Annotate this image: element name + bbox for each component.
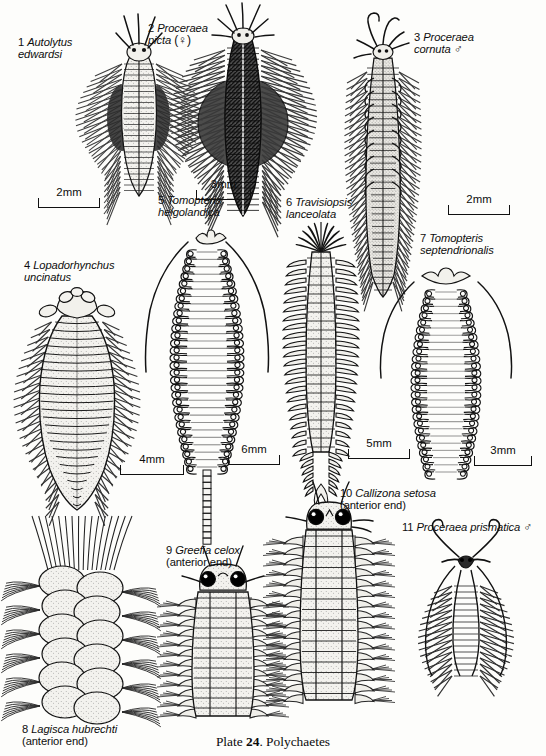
figure-label-6: 6 Travisiopsis lanceolata	[286, 196, 352, 221]
scale-bar-2mm-fig3: 2mm	[448, 193, 510, 215]
figure-label-9: 9 Greefia celox(anterior end)	[166, 544, 240, 569]
figure-species-4: Lopadorhynchus uncinatus	[24, 259, 114, 283]
scale-bar-5mm-fig6: 5mm	[348, 437, 410, 459]
figure-qualifier-9: (anterior end)	[166, 556, 240, 568]
scale-bar-2mm-fig1: 2mm	[38, 186, 100, 208]
caption-prefix: Plate	[216, 734, 246, 749]
figure-label-11: 11 Proceraea prismatica ♂	[402, 521, 532, 533]
figure-number-5: 5	[158, 194, 164, 206]
caption-number: 24	[246, 734, 259, 749]
figure-number-11: 11	[402, 521, 413, 533]
figure-species-6: Travisiopsis lanceolata	[286, 196, 352, 220]
figure-4-lopadorhynchus-uncinatus	[14, 288, 141, 526]
figure-sex-symbol-11: ♂	[523, 520, 532, 534]
figure-species-10: Callizona setosa	[355, 487, 436, 499]
figure-number-9: 9	[166, 544, 172, 556]
scale-bar-3mm-fig2: 3mm	[196, 178, 251, 200]
figure-label-7: 7 Tomopteris septendrionalis	[420, 232, 494, 257]
figure-label-4: 4 Lopadorhynchus uncinatus	[24, 259, 114, 284]
figure-species-11: Proceraea prismatica	[416, 521, 520, 533]
polychaete-plate-illustration	[0, 0, 546, 756]
figure-3-proceraea-cornuta	[344, 13, 421, 311]
scale-bar-rule	[474, 456, 532, 466]
figure-8-lagisca-hubrechti	[1, 516, 161, 727]
figure-label-1: 1 Autolytus edwardsi	[18, 36, 72, 61]
figure-sex-symbol-2: (♀)	[174, 33, 191, 47]
figure-number-2: 2	[148, 22, 154, 34]
figure-species-7: Tomopteris septendrionalis	[420, 232, 494, 256]
figure-number-3: 3	[414, 31, 420, 43]
figure-label-3: 3 Proceraea cornuta ♂	[414, 31, 474, 56]
scale-bar-3mm-fig7: 3mm	[474, 444, 532, 466]
figure-species-3: Proceraea cornuta	[414, 31, 474, 55]
plate-caption: Plate 24. Polychaetes	[0, 734, 546, 750]
scale-bar-rule	[38, 198, 100, 208]
figure-5-tomopteris-helgolandica	[146, 230, 269, 544]
figure-9-greefia-celox	[157, 546, 289, 718]
figure-sex-symbol-3: ♂	[454, 42, 463, 56]
figure-number-10: 10	[340, 487, 352, 499]
figure-species-1: Autolytus edwardsi	[18, 36, 72, 60]
figure-number-7: 7	[420, 232, 426, 244]
scale-bar-4mm-fig4: 4mm	[120, 453, 184, 475]
figure-6-travisiopsis-lanceolata	[283, 222, 359, 506]
scale-bar-rule	[448, 205, 510, 215]
scale-bar-rule	[228, 455, 280, 465]
figure-number-6: 6	[286, 196, 292, 208]
scale-bar-rule	[196, 190, 251, 200]
figure-label-2: 2 Proceraea picta (♀)	[148, 22, 208, 47]
figure-10-callizona-setosa	[263, 482, 395, 704]
figure-species-9: Greefia celox	[175, 544, 240, 556]
figure-11-proceraea-prismatica	[418, 520, 514, 697]
figure-qualifier-10: (anterior end)	[340, 499, 436, 511]
figure-label-10: 10 Callizona setosa(anterior end)	[340, 487, 436, 512]
scale-bar-6mm-fig5: 6mm	[228, 443, 280, 465]
figure-number-1: 1	[18, 36, 24, 48]
scale-bar-rule	[120, 465, 184, 475]
figure-number-4: 4	[24, 259, 30, 271]
caption-suffix: . Polychaetes	[259, 734, 330, 749]
scale-bar-rule	[348, 449, 410, 459]
